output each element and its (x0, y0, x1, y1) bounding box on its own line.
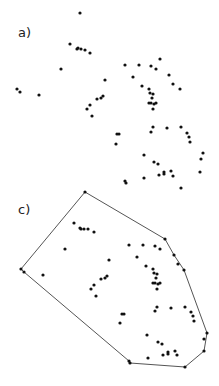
data-point (89, 287, 92, 290)
data-point (68, 42, 71, 45)
data-point (176, 262, 179, 265)
data-point (128, 361, 131, 364)
data-point (156, 162, 159, 165)
data-point (88, 103, 91, 106)
data-point (158, 281, 161, 284)
data-point (83, 48, 86, 51)
data-point (182, 268, 185, 271)
data-point (124, 181, 127, 184)
data-point (172, 253, 175, 256)
data-point (156, 340, 159, 343)
data-point (155, 287, 158, 290)
data-point (199, 157, 202, 160)
point-set-a (15, 11, 204, 189)
data-point (198, 170, 201, 173)
data-point (183, 365, 186, 368)
data-point (149, 130, 152, 133)
data-point (160, 342, 163, 345)
data-point (183, 305, 186, 308)
data-point (15, 87, 18, 90)
data-point (179, 125, 182, 128)
data-point (175, 353, 178, 356)
data-point (103, 276, 106, 279)
data-point (63, 247, 66, 250)
data-point (123, 63, 126, 66)
data-point (88, 51, 91, 54)
data-point (167, 73, 170, 76)
data-point (135, 255, 138, 258)
data-point (82, 227, 85, 230)
data-point (76, 46, 79, 49)
data-point (151, 92, 154, 95)
data-point (155, 305, 158, 308)
data-point (117, 132, 120, 135)
data-point (37, 93, 40, 96)
data-point (79, 227, 82, 230)
data-point (163, 237, 166, 240)
hull-outline (21, 192, 207, 367)
data-point (107, 258, 110, 261)
data-point (154, 67, 157, 70)
convex-hull-polygon (21, 192, 207, 367)
data-point (99, 96, 102, 99)
data-point (205, 331, 208, 334)
data-point (185, 131, 188, 134)
data-point (154, 101, 157, 104)
data-point (122, 312, 125, 315)
data-point (59, 67, 62, 70)
data-point (72, 221, 75, 224)
point-set-c (19, 190, 208, 368)
data-point (151, 281, 154, 284)
data-point (148, 91, 151, 94)
data-point (144, 264, 147, 267)
data-point (94, 294, 97, 297)
data-point (147, 87, 150, 90)
data-point (151, 267, 154, 270)
data-point (151, 107, 154, 110)
data-point (78, 11, 81, 14)
data-point (201, 151, 204, 154)
data-point (187, 135, 190, 138)
data-point (153, 244, 156, 247)
data-point (154, 276, 157, 279)
data-point (158, 247, 161, 250)
data-point (169, 306, 172, 309)
data-point (151, 125, 154, 128)
data-point (127, 243, 130, 246)
data-point (95, 97, 98, 100)
data-point (178, 87, 181, 90)
data-point (146, 356, 149, 359)
data-point (173, 349, 176, 352)
data-point (92, 283, 95, 286)
data-point (85, 107, 88, 110)
data-point (141, 243, 144, 246)
data-point (157, 173, 160, 176)
data-point (192, 319, 195, 322)
data-point (19, 267, 22, 270)
data-point (150, 96, 153, 99)
data-point (171, 174, 174, 177)
data-point (191, 314, 194, 317)
data-point (79, 47, 82, 50)
data-point (202, 349, 205, 352)
data-point (103, 78, 106, 81)
data-point (142, 153, 145, 156)
data-point (140, 84, 143, 87)
data-point (188, 140, 191, 143)
data-point (145, 333, 148, 336)
data-point (155, 272, 158, 275)
data-point (90, 114, 93, 117)
data-point (179, 186, 182, 189)
data-point (86, 227, 89, 230)
data-point (83, 190, 86, 193)
data-point (152, 160, 155, 163)
data-point (153, 309, 156, 312)
data-point (149, 64, 152, 67)
data-point (162, 172, 165, 175)
data-point (147, 101, 150, 104)
data-point (131, 75, 134, 78)
data-point (18, 90, 21, 93)
data-point (169, 169, 172, 172)
convex-hull-diagram (0, 0, 219, 386)
data-point (171, 82, 174, 85)
